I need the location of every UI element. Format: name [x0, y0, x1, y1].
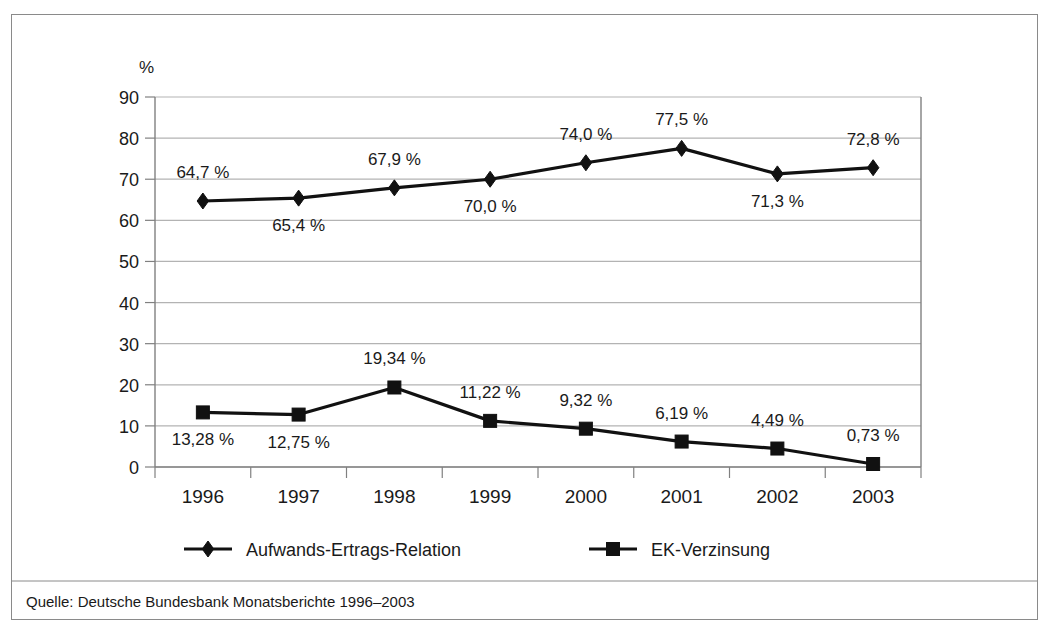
- data-point-label: 65,4 %: [272, 216, 325, 235]
- x-category-label: 1999: [469, 486, 511, 507]
- legend-label: Aufwands-Ertrags-Relation: [246, 540, 461, 560]
- x-category-label: 1998: [373, 486, 415, 507]
- y-tick-label: 50: [119, 252, 139, 272]
- chart-figure-frame: 0102030405060708090%19961997199819992000…: [11, 14, 1038, 620]
- data-point-marker-square: [675, 435, 688, 448]
- data-point-label: 72,8 %: [847, 130, 900, 149]
- data-point-marker-square: [292, 408, 305, 421]
- data-point-marker-diamond: [676, 140, 688, 156]
- y-tick-label: 80: [119, 129, 139, 149]
- data-point-label: 4,49 %: [751, 411, 804, 430]
- data-point-marker-square: [196, 406, 209, 419]
- y-tick-label: 0: [129, 458, 139, 478]
- data-point-marker-diamond: [197, 193, 209, 209]
- x-category-label: 1997: [277, 486, 319, 507]
- data-point-label: 70,0 %: [464, 197, 517, 216]
- line-chart: 0102030405060708090%19961997199819992000…: [12, 15, 1037, 619]
- data-point-marker-diamond: [484, 171, 496, 187]
- y-tick-label: 20: [119, 376, 139, 396]
- data-point-marker-diamond: [293, 190, 305, 206]
- data-point-marker-square: [771, 442, 784, 455]
- data-point-label: 64,7 %: [176, 163, 229, 182]
- y-tick-label: 30: [119, 335, 139, 355]
- series-2: 13,28 %12,75 %19,34 %11,22 %9,32 %6,19 %…: [172, 349, 900, 470]
- data-point-marker-diamond: [580, 155, 592, 171]
- x-axis-category-labels: 19961997199819992000200120022003: [182, 486, 895, 507]
- y-axis-title: %: [139, 58, 154, 77]
- source-note: Quelle: Deutsche Bundesbank Monatsberich…: [26, 593, 415, 610]
- gridlines: [155, 97, 921, 467]
- x-category-label: 2002: [756, 486, 798, 507]
- series-1: 64,7 %65,4 %67,9 %70,0 %74,0 %77,5 %71,3…: [176, 110, 899, 235]
- data-point-label: 9,32 %: [559, 391, 612, 410]
- data-point-label: 19,34 %: [363, 349, 425, 368]
- data-point-marker-diamond: [867, 160, 879, 176]
- data-point-label: 0,73 %: [847, 426, 900, 445]
- x-category-label: 2003: [852, 486, 894, 507]
- data-point-label: 74,0 %: [559, 125, 612, 144]
- data-point-marker-square: [867, 457, 880, 470]
- data-point-marker-square: [388, 381, 401, 394]
- x-category-label: 2001: [660, 486, 702, 507]
- data-point-label: 67,9 %: [368, 150, 421, 169]
- y-tick-label: 40: [119, 294, 139, 314]
- data-point-label: 6,19 %: [655, 404, 708, 423]
- legend: Aufwands-Ertrags-RelationEK-Verzinsung: [184, 540, 770, 560]
- y-axis-tick-labels: 0102030405060708090: [119, 88, 155, 478]
- data-point-marker-diamond: [389, 180, 401, 196]
- data-point-marker-square: [579, 422, 592, 435]
- plot-frame: [155, 97, 921, 467]
- data-point-label: 12,75 %: [267, 433, 329, 452]
- y-tick-label: 10: [119, 417, 139, 437]
- y-tick-label: 90: [119, 88, 139, 108]
- data-point-label: 77,5 %: [655, 110, 708, 129]
- y-tick-label: 60: [119, 211, 139, 231]
- data-point-marker-square: [607, 543, 620, 556]
- y-tick-label: 70: [119, 170, 139, 190]
- x-category-label: 1996: [182, 486, 224, 507]
- data-point-label: 71,3 %: [751, 192, 804, 211]
- data-point-marker-square: [484, 414, 497, 427]
- data-point-label: 11,22 %: [460, 383, 521, 402]
- data-point-label: 13,28 %: [172, 430, 234, 449]
- x-axis-tick-marks: [155, 467, 921, 478]
- legend-label: EK-Verzinsung: [651, 540, 770, 560]
- x-category-label: 2000: [565, 486, 607, 507]
- data-point-marker-diamond: [202, 541, 214, 557]
